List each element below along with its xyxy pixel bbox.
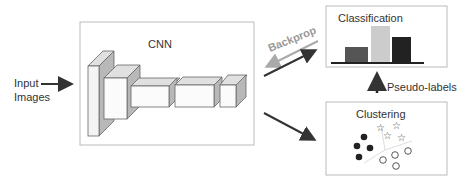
- diagram: Input Images CNN: [0, 0, 466, 182]
- classification-title: Classification: [338, 12, 403, 24]
- star-icon: ☆: [392, 120, 401, 131]
- star-icon: ☆: [383, 130, 392, 141]
- cnn-box: CNN: [80, 22, 254, 145]
- clustering-box: Clustering ☆ ☆ ☆ ☆: [326, 102, 447, 175]
- cluster-dot: [354, 143, 361, 150]
- bar-1: [345, 47, 368, 63]
- cluster-dot: [356, 154, 363, 161]
- backprop-label: Backprop: [266, 24, 318, 54]
- classification-box: Classification: [326, 6, 447, 67]
- input-label-line2: Images: [14, 91, 51, 103]
- cnn-layer-4: [175, 77, 222, 107]
- bar-3: [392, 37, 411, 63]
- cnn-layer-3: [131, 78, 180, 107]
- cluster-dot: [367, 145, 374, 152]
- star-icon: ☆: [397, 132, 406, 143]
- input-label-line1: Input: [14, 77, 38, 89]
- pseudo-labels-label: Pseudo-labels: [387, 81, 457, 93]
- cnn-title: CNN: [148, 38, 172, 50]
- clustering-title: Clustering: [356, 108, 406, 120]
- cluster-dot: [361, 134, 368, 141]
- forward-arrow-clustering: [264, 113, 313, 139]
- bar-2: [371, 26, 390, 63]
